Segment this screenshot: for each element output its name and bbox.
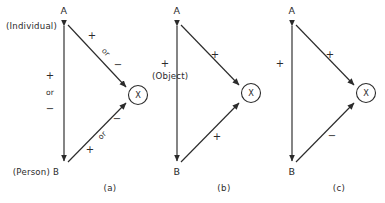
sign-c-upper-plus: +: [326, 49, 334, 60]
node-object-a-paren-label: (Object): [152, 71, 188, 81]
sign-b-vertical-plus: +: [161, 58, 169, 69]
edge-a-bottom-to-object: [68, 103, 126, 162]
panel-a: X A (Individual) (Person) B (Object) + o…: [6, 5, 188, 193]
caption-c: (c): [333, 183, 346, 193]
node-object-b-label: X: [248, 88, 254, 98]
sign-a-vertical-plus: +: [46, 70, 54, 81]
sign-c-lower-minus: −: [328, 130, 336, 141]
node-object-a-label: X: [135, 90, 141, 100]
node-b-paren-label: (Person) B: [13, 167, 59, 177]
caption-b: (b): [217, 183, 230, 193]
node-c-bottom-label: B: [289, 166, 296, 177]
node-a-paren-label: (Individual): [6, 21, 57, 31]
panel-c: X A B + + − (c): [276, 5, 376, 193]
edge-a-top-to-object: [68, 25, 126, 87]
sign-a-vertical-or: or: [46, 88, 55, 97]
sign-c-vertical-plus: +: [276, 58, 284, 69]
node-b-top-label: A: [174, 5, 181, 16]
sign-a-vertical-minus: −: [46, 103, 54, 114]
sign-a-upper-plus: +: [88, 30, 96, 41]
node-b-bottom-label: B: [174, 166, 181, 177]
figure-root: X A (Individual) (Person) B (Object) + o…: [0, 0, 385, 203]
panel-b: X A B + + + (b): [161, 5, 261, 193]
node-c-top-label: A: [289, 5, 296, 16]
sign-a-upper-minus: −: [114, 59, 122, 70]
sign-a-upper-or: or: [100, 46, 113, 59]
sign-a-lower-plus: +: [86, 144, 94, 155]
sign-b-upper-plus: +: [211, 49, 219, 60]
node-object-c-label: X: [363, 88, 369, 98]
sign-a-lower-minus: −: [113, 113, 121, 124]
edge-c-bottom-to-object: [296, 103, 354, 162]
balance-theory-diagram: X A (Individual) (Person) B (Object) + o…: [0, 0, 385, 203]
caption-a: (a): [103, 183, 116, 193]
sign-b-lower-plus: +: [213, 131, 221, 142]
sign-a-lower-or: or: [96, 129, 109, 142]
edge-b-bottom-to-object: [181, 103, 239, 162]
node-a-label: A: [61, 5, 68, 16]
